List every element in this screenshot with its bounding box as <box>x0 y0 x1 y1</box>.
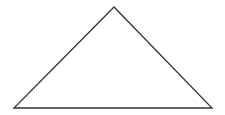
triangle-shape <box>14 7 212 108</box>
triangle-diagram <box>0 0 225 115</box>
diagram-canvas <box>0 0 225 115</box>
